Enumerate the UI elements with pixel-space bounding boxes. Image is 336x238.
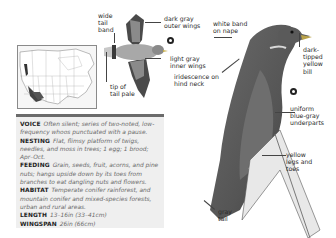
leader-line [214, 37, 232, 38]
range-map [17, 45, 97, 109]
leader-line [145, 58, 161, 59]
leader-line [299, 33, 300, 47]
leader-line [114, 33, 115, 43]
label-yellow-legs-and-toes: yellow legs and toes [286, 151, 312, 173]
label-gray-tail: gray tail [218, 208, 232, 222]
label-wide-tail-band: wide tail band [98, 12, 114, 34]
info-habitat: HABITATTemperate conifer rainforest, and… [20, 186, 160, 211]
label-tip-of-tail-pale: tip of tail pale [110, 83, 135, 97]
leader-line [106, 52, 107, 82]
flight-pattern-icon [290, 88, 297, 95]
info-nesting: NESTINGFlat, flimsy platform of twigs, n… [20, 137, 160, 162]
label-white-band-on-nape: white band on nape [213, 20, 247, 34]
label-iridescence-on-hind-neck: iridescence on hind neck [174, 73, 219, 87]
info-length: LENGTH13–16in (33–41cm) [20, 211, 160, 219]
label-uniform-blue-gray-underparts: uniform blue-gray underparts [290, 105, 324, 127]
info-voice: VOICEOften silent; series of two-noted, … [20, 120, 160, 137]
info-feeding: FEEDINGGrain, seeds, fruit, acorns, and … [20, 161, 160, 186]
leader-line [262, 155, 286, 156]
north-america-map-icon [18, 46, 96, 108]
flight-pattern-icon [167, 37, 174, 44]
species-info-panel: VOICEOften silent; series of two-noted, … [16, 117, 164, 228]
label-dark-tipped-yellow-bill: dark- tipped yellow bill [303, 46, 323, 75]
leader-line [145, 22, 161, 23]
info-wingspan: WINGSPAN26in (66cm) [20, 220, 160, 228]
